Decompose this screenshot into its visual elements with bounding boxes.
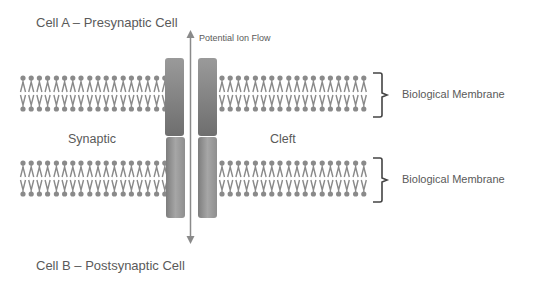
bracket-icon-bottom — [373, 158, 387, 202]
cell-a-label: Cell A – Presynaptic Cell — [36, 15, 178, 30]
cleft-label: Cleft — [270, 132, 296, 146]
ion-channel-right — [198, 58, 217, 218]
synaptic-label: Synaptic — [68, 132, 116, 146]
membrane-bottom-right-lipids — [219, 160, 366, 196]
membrane-top-right-lipids — [219, 75, 366, 111]
membrane-top-left-lipids — [20, 75, 167, 111]
ion-channel-left — [165, 58, 185, 218]
ion-flow-label: Potential Ion Flow — [199, 33, 271, 43]
ion-flow-arrow — [187, 30, 195, 244]
cell-b-label: Cell B – Postsynaptic Cell — [36, 258, 185, 273]
bracket-icon-top — [373, 73, 387, 117]
membrane-label-top: Biological Membrane — [402, 88, 505, 100]
membrane-label-bottom: Biological Membrane — [402, 173, 505, 185]
membrane-bottom-left-lipids — [20, 160, 167, 196]
